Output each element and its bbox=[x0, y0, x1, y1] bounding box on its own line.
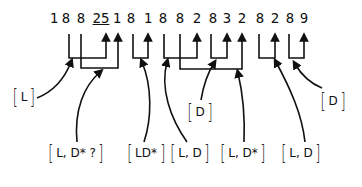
bracket-label-LDstar: [LD*] bbox=[125, 142, 166, 164]
bracket-label-L: [L] bbox=[11, 86, 37, 108]
bracket-label-D-first: [D] bbox=[186, 101, 214, 123]
bracket-label-L-D-second: [L, D] bbox=[280, 142, 323, 164]
bracket-label-L-D-first: [L, D] bbox=[169, 142, 212, 164]
bracket-label-L-Dstar-question: [L, D* ?] bbox=[47, 142, 106, 164]
bracket-label-D-second: [D] bbox=[319, 90, 347, 112]
dependency-diagram: 1 8 8 25 1 8 1 8 8 2 8 3 2 8 2 8 9 bbox=[0, 0, 362, 187]
bracket-label-L-Dstar: [L, D*] bbox=[219, 142, 268, 164]
